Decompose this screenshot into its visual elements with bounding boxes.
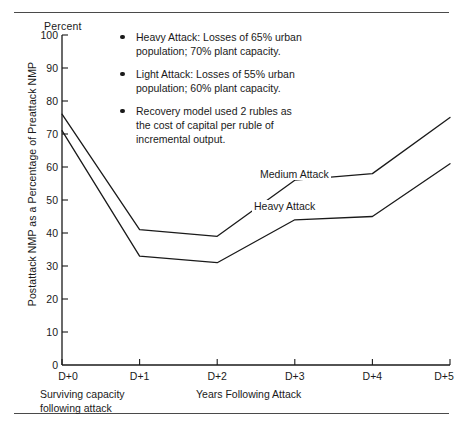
x-tick-label: D+0 [58,370,78,382]
y-tick-label: 40 [32,227,58,239]
y-tick-label: 20 [32,293,58,305]
annotation-text: Recovery model used 2 rubles as the cost… [136,104,370,146]
annotation-item: Light Attack: Losses of 55% urban popula… [120,67,370,95]
y-tick-label-group: 0102030405060708090100 [32,35,58,365]
bullet-icon [120,35,125,40]
y-tick-label: 0 [32,359,58,371]
x-tick-label: D+4 [363,370,383,382]
x-axis-caption-left: Surviving capacity following attack [40,388,125,415]
annotation-item: Heavy Attack: Losses of 65% urban popula… [120,30,370,58]
series-label-heavy: Heavy Attack [252,200,317,212]
annotation-text: Heavy Attack: Losses of 65% urban popula… [136,30,370,58]
annotation-text: Light Attack: Losses of 55% urban popula… [136,67,370,95]
x-tick-label: D+3 [285,370,305,382]
y-tick-label: 60 [32,161,58,173]
x-tick-label: D+5 [434,370,454,382]
y-tick-label: 70 [32,128,58,140]
bullet-icon [120,109,125,114]
series-label-medium: Medium Attack [258,168,331,180]
bullet-icon [120,72,125,77]
y-tick-label: 10 [32,326,58,338]
x-axis-caption-middle: Years Following Attack [196,388,301,402]
annotation-item: Recovery model used 2 rubles as the cost… [120,104,370,146]
y-tick-label: 80 [32,95,58,107]
x-tick-label: D+2 [207,370,227,382]
y-tick-label: 100 [32,29,58,41]
top-rule [14,12,449,13]
y-tick-label: 90 [32,62,58,74]
y-tick-label: 50 [32,194,58,206]
x-tick-label-group: D+0D+1D+2D+3D+4D+5 [62,370,450,384]
x-tick-label: D+1 [130,370,150,382]
annotation-list: Heavy Attack: Losses of 65% urban popula… [120,30,370,155]
y-tick-label: 30 [32,260,58,272]
figure-container: Percent Postattack NMP as a Percentage o… [0,0,463,428]
